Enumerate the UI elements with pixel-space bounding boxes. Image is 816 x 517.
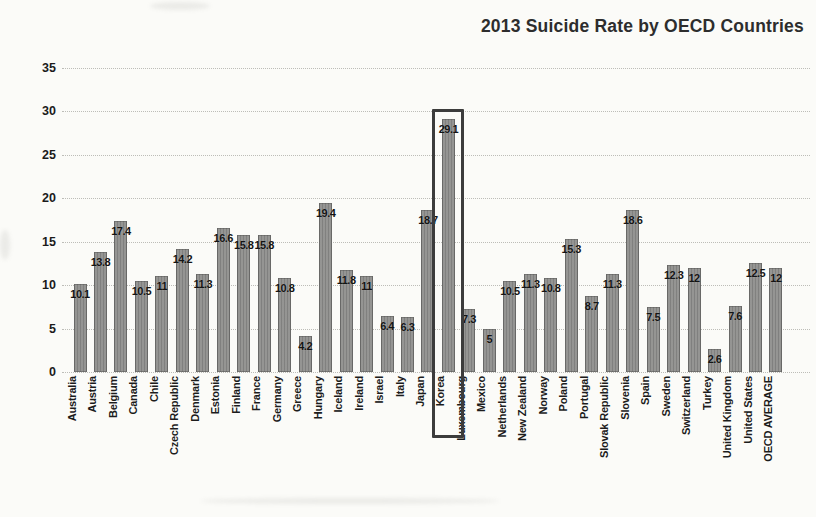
value-label-denmark: 11.3: [185, 278, 221, 290]
value-label-slovenia: 18.6: [615, 214, 651, 226]
x-axis-label-germany: Germany: [269, 376, 285, 508]
y-axis-tick-0: 0: [22, 365, 56, 379]
y-axis-tick-25: 25: [22, 148, 56, 162]
highlight-box-korea: [432, 109, 464, 438]
x-axis-label-slovenia: Slovenia: [617, 376, 633, 508]
value-label-france: 15.8: [246, 239, 282, 251]
x-axis-label-iceland: Iceland: [330, 376, 346, 508]
value-label-hungary: 19.4: [308, 207, 344, 219]
value-label-australia: 10.1: [62, 288, 98, 300]
x-axis-label-france: France: [248, 376, 264, 508]
x-axis-label-new-zealand: New Zealand: [514, 376, 530, 508]
value-label-poland: 15.3: [553, 243, 589, 255]
value-label-united-kingdom: 7.6: [717, 310, 753, 322]
x-axis-label-united-kingdom: United Kingdom: [719, 376, 735, 508]
bar-hungary: [319, 203, 332, 372]
x-axis-label-estonia: Estonia: [207, 376, 223, 508]
value-label-switzerland: 12: [676, 272, 712, 284]
x-axis-label-oecd-average: OECD AVERAGE: [760, 376, 776, 508]
value-label-austria: 13.8: [82, 256, 118, 268]
x-axis-label-united-states: United States: [740, 376, 756, 508]
x-axis-label-slovak-republic: Slovak Republic: [596, 376, 612, 508]
x-axis-label-sweden: Sweden: [658, 376, 674, 508]
value-label-belgium: 17.4: [103, 225, 139, 237]
x-axis-label-norway: Norway: [535, 376, 551, 508]
value-label-italy: 6.3: [390, 321, 426, 333]
bar-austria: [94, 252, 107, 372]
value-label-greece: 4.2: [287, 340, 323, 352]
x-axis-label-turkey: Turkey: [699, 376, 715, 508]
x-axis-label-chile: Chile: [146, 376, 162, 508]
plot-area: 0510152025303510.1Australia13.8Austria17…: [0, 0, 816, 517]
value-label-chile: 11: [144, 280, 180, 292]
x-axis-label-belgium: Belgium: [105, 376, 121, 508]
x-axis-label-finland: Finland: [228, 376, 244, 508]
x-axis-label-switzerland: Switzerland: [678, 376, 694, 508]
x-axis-label-poland: Poland: [555, 376, 571, 508]
x-axis-label-czech-republic: Czech Republic: [166, 376, 182, 508]
y-axis-tick-5: 5: [22, 322, 56, 336]
value-label-mexico: 5: [471, 333, 507, 345]
x-axis-label-israel: Israel: [371, 376, 387, 508]
value-label-turkey: 2.6: [697, 353, 733, 365]
y-axis-tick-10: 10: [22, 278, 56, 292]
x-axis-label-mexico: Mexico: [473, 376, 489, 508]
scanned-page: 2013 Suicide Rate by OECD Countries 0510…: [0, 0, 816, 517]
x-axis-label-spain: Spain: [637, 376, 653, 508]
value-label-germany: 10.8: [267, 282, 303, 294]
y-axis-tick-20: 20: [22, 191, 56, 205]
x-axis-label-austria: Austria: [84, 376, 100, 508]
y-axis-tick-15: 15: [22, 235, 56, 249]
y-axis-tick-35: 35: [22, 61, 56, 75]
bar-slovenia: [626, 210, 639, 372]
x-axis-label-japan: Japan: [412, 376, 428, 508]
grid-line-35: [62, 68, 810, 69]
x-axis-label-canada: Canada: [125, 376, 141, 508]
value-label-czech-republic: 14.2: [164, 253, 200, 265]
x-axis-label-australia: Australia: [64, 376, 80, 508]
x-axis-label-ireland: Ireland: [351, 376, 367, 508]
y-axis-tick-30: 30: [22, 104, 56, 118]
x-axis-label-greece: Greece: [289, 376, 305, 508]
value-label-oecd-average: 12: [758, 272, 794, 284]
x-axis-label-italy: Italy: [392, 376, 408, 508]
value-label-portugal: 8.7: [574, 300, 610, 312]
x-axis-label-netherlands: Netherlands: [494, 376, 510, 508]
bar-france: [258, 235, 271, 372]
x-axis-label-portugal: Portugal: [576, 376, 592, 508]
x-axis-label-hungary: Hungary: [310, 376, 326, 508]
bar-finland: [237, 235, 250, 372]
x-axis-label-denmark: Denmark: [187, 376, 203, 508]
bar-czech-republic: [176, 249, 189, 372]
value-label-norway: 10.8: [533, 282, 569, 294]
value-label-ireland: 11: [349, 280, 385, 292]
value-label-slovak-republic: 11.3: [594, 278, 630, 290]
value-label-spain: 7.5: [635, 311, 671, 323]
